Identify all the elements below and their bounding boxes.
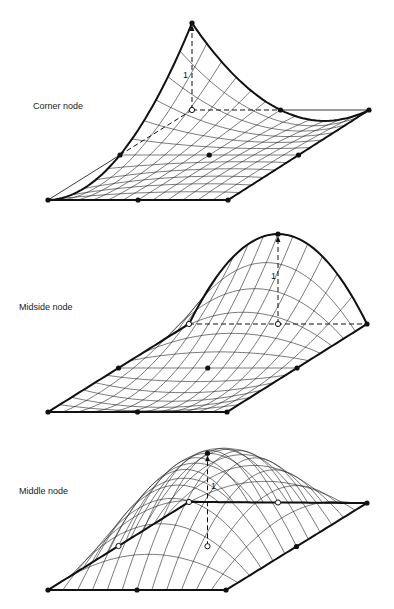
panel-midside-node: 1: [45, 231, 369, 414]
corner-node-label: Corner node: [33, 101, 83, 111]
node-bottom-right: [225, 197, 230, 202]
mesh-line: [96, 169, 275, 180]
node-back-mid: [275, 321, 280, 326]
mesh-line: [63, 44, 207, 201]
mesh-line: [166, 289, 344, 339]
middle-node-label: Middle node: [19, 486, 68, 496]
mesh-line: [198, 120, 340, 200]
node-bottom-mid: [135, 409, 140, 414]
hidden-base-edge: [120, 110, 192, 155]
panel-middle-node: 1: [45, 448, 369, 593]
node-bottom-left: [45, 409, 50, 414]
node-right-mid: [294, 544, 299, 549]
mesh-line: [167, 244, 307, 412]
node-back-right: [364, 321, 369, 326]
mesh-line: [83, 390, 262, 401]
peak-node: [205, 451, 210, 456]
node-left-mid: [116, 543, 121, 548]
unit-value-label: 1: [211, 481, 216, 491]
node-left-mid: [116, 365, 121, 370]
panel-corner-node: 1: [45, 20, 371, 202]
unit-value-label: 1: [183, 70, 188, 80]
surface-edge: [192, 23, 369, 121]
mesh-line: [60, 554, 238, 583]
mesh-line: [93, 77, 236, 200]
node-bottom-left: [45, 587, 50, 592]
node-center: [205, 544, 210, 549]
mesh-line: [182, 470, 323, 590]
arrowhead-icon: [205, 455, 210, 461]
node-left-mid: [117, 152, 122, 157]
mesh-line: [211, 501, 352, 590]
node-back-left: [189, 107, 194, 112]
node-right-mid: [296, 152, 301, 157]
mesh-line: [138, 234, 279, 412]
node-back-left: [186, 499, 191, 504]
mesh-line: [180, 51, 357, 126]
node-back-left: [186, 321, 191, 326]
node-bottom-right: [223, 587, 228, 592]
node-back-mid: [278, 107, 283, 112]
node-back-right: [366, 107, 371, 112]
mesh-line: [107, 463, 285, 554]
node-center: [207, 152, 212, 157]
mesh-line: [167, 458, 308, 590]
mesh-line: [95, 478, 273, 561]
mesh-line: [108, 91, 251, 200]
node-back-right: [364, 500, 369, 505]
mesh-line: [142, 449, 320, 532]
mesh-line: [123, 102, 266, 201]
node-center: [205, 365, 210, 370]
mesh-line: [130, 449, 308, 540]
mesh-line: [183, 121, 325, 200]
mesh-line: [48, 23, 192, 200]
unit-value-label: 1: [271, 271, 276, 281]
peak-node: [189, 20, 194, 25]
mesh-line: [192, 23, 369, 121]
mesh-line: [63, 501, 204, 590]
mesh-line: [72, 524, 250, 576]
node-bottom-mid: [134, 587, 139, 592]
mesh-line: [144, 121, 322, 143]
mesh-line: [177, 481, 355, 510]
node-bottom-left: [45, 197, 50, 202]
surface-edge: [48, 23, 192, 200]
peak-node: [275, 231, 280, 236]
node-bottom-right: [224, 409, 229, 414]
midside-node-label: Midside node: [19, 302, 73, 312]
node-right-mid: [294, 365, 299, 370]
mesh-line: [95, 383, 274, 393]
mesh-line: [168, 77, 346, 131]
node-bottom-mid: [135, 197, 140, 202]
node-back-mid: [275, 500, 280, 505]
mesh-line: [130, 352, 308, 361]
